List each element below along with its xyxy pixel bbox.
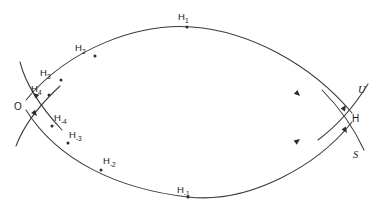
svg-text:H2: H2	[75, 42, 86, 55]
orbit-dot-h-3	[67, 142, 70, 145]
orbit-dot-h3	[60, 79, 63, 82]
svg-text:H-2: H-2	[103, 155, 116, 168]
label-h-4-sub: -4	[61, 118, 67, 125]
orbit-dot-h-4	[51, 125, 54, 128]
arrow-lower-toward-h	[294, 137, 302, 145]
label-h-4: H-4	[54, 112, 67, 125]
arrow-upper-toward-h	[294, 90, 302, 98]
svg-text:H-1: H-1	[177, 184, 190, 197]
label-h3: H3	[40, 67, 51, 80]
figure-canvas: H1 H2 H3 H4 H-1 H-2	[0, 0, 383, 214]
label-h2: H2	[75, 42, 86, 55]
label-origin-point: O	[14, 101, 22, 112]
label-h1: H1	[178, 11, 189, 24]
label-h-3-sub: -3	[76, 135, 82, 142]
upper-orbit-curve	[26, 27, 352, 113]
orbit-dot-h4	[48, 94, 51, 97]
label-stable-manifold: S	[353, 149, 359, 160]
label-h1-sub: 1	[185, 17, 189, 24]
orbit-dot-h-2	[100, 169, 103, 172]
label-h-2: H-2	[103, 155, 116, 168]
label-h-2-sub: -2	[110, 161, 116, 168]
orbit-dot-h2	[94, 55, 97, 58]
lower-orbit-curve	[26, 110, 352, 198]
label-h2-sub: 2	[82, 48, 86, 55]
label-h3-sub: 3	[47, 73, 51, 80]
label-unstable-manifold: U	[358, 84, 367, 95]
label-h-1-sub: -1	[184, 190, 190, 197]
label-homoclinic-point: H	[352, 113, 359, 124]
orbit-dot-h1	[186, 26, 189, 29]
svg-text:H1: H1	[178, 11, 189, 24]
label-h-1: H-1	[177, 184, 190, 197]
svg-text:H-3: H-3	[69, 129, 82, 142]
svg-text:H-4: H-4	[54, 112, 67, 125]
label-h4-sub: 4	[38, 89, 42, 96]
svg-text:H3: H3	[40, 67, 51, 80]
homoclinic-diagram: H1 H2 H3 H4 H-1 H-2	[0, 0, 383, 214]
label-h-3: H-3	[69, 129, 82, 142]
